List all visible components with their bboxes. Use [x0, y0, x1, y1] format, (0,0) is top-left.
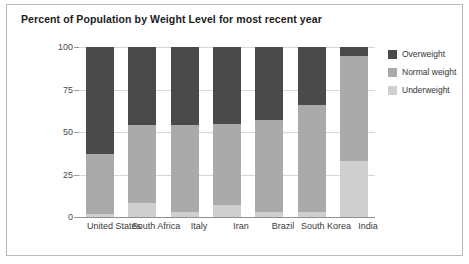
bar-segment[interactable]: [255, 47, 283, 120]
legend-swatch-icon: [388, 50, 397, 59]
bar-segment[interactable]: [255, 120, 283, 212]
chart-card: Percent of Population by Weight Level fo…: [6, 4, 463, 256]
bar-segment[interactable]: [171, 47, 199, 125]
x-axis-line: [75, 217, 375, 218]
y-axis-tick-label: 100: [39, 42, 73, 52]
y-axis-tick-label: 75: [39, 85, 73, 95]
bar-segment[interactable]: [128, 203, 156, 217]
bar-stack[interactable]: [86, 47, 114, 217]
legend-item-label: Overweight: [402, 49, 445, 59]
bar-segment[interactable]: [298, 47, 326, 105]
bar-stack[interactable]: [340, 47, 368, 217]
bar-segment[interactable]: [128, 125, 156, 203]
bar-stack[interactable]: [128, 47, 156, 217]
legend-item[interactable]: Normal weight: [388, 67, 468, 77]
bar-stack[interactable]: [255, 47, 283, 217]
y-axis-labels: 0255075100: [35, 47, 73, 217]
bar-stack[interactable]: [298, 47, 326, 217]
x-axis-tick-label: India: [340, 221, 396, 232]
bar-segment[interactable]: [213, 205, 241, 217]
bar-segment[interactable]: [171, 125, 199, 212]
bar-segment[interactable]: [255, 212, 283, 217]
bar-stack[interactable]: [213, 47, 241, 217]
bar-segment[interactable]: [340, 56, 368, 161]
legend-item[interactable]: Overweight: [388, 49, 468, 59]
bar-segment[interactable]: [86, 47, 114, 154]
legend-item-label: Underweight: [402, 85, 450, 95]
y-axis-tick: [74, 217, 79, 218]
legend-swatch-icon: [388, 86, 397, 95]
legend: OverweightNormal weightUnderweight: [388, 49, 468, 103]
screenshot-root: Percent of Population by Weight Level fo…: [0, 0, 469, 264]
legend-item-label: Normal weight: [402, 67, 456, 77]
y-axis-tick: [74, 132, 79, 133]
y-axis-tick: [74, 90, 79, 91]
bar-segment[interactable]: [171, 212, 199, 217]
bar-segment[interactable]: [340, 47, 368, 56]
plot-area: United StatesSouth AfricaItalyIranBrazil…: [79, 47, 375, 217]
bar-segment[interactable]: [340, 161, 368, 217]
bar-segment[interactable]: [298, 105, 326, 212]
y-axis-tick-label: 0: [39, 212, 73, 222]
bar-segment[interactable]: [298, 212, 326, 217]
bar-segment[interactable]: [86, 154, 114, 214]
y-axis-tick-label: 50: [39, 127, 73, 137]
bar-segment[interactable]: [86, 214, 114, 217]
bar-stack[interactable]: [171, 47, 199, 217]
y-axis-tick-label: 25: [39, 170, 73, 180]
page-title: Percent of Population by Weight Level fo…: [21, 13, 322, 25]
bar-segment[interactable]: [213, 47, 241, 124]
bar-segment[interactable]: [128, 47, 156, 125]
legend-swatch-icon: [388, 68, 397, 77]
bar-segment[interactable]: [213, 124, 241, 206]
legend-item[interactable]: Underweight: [388, 85, 468, 95]
y-axis-tick: [74, 47, 79, 48]
y-axis-tick: [74, 175, 79, 176]
